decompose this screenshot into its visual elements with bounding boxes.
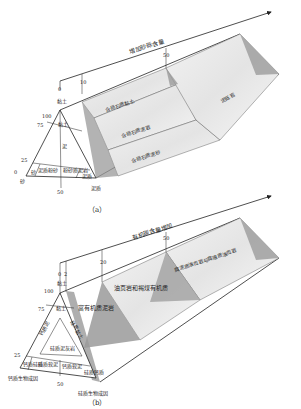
sediment-classification-diagram: 增加砂砾含量 0 10 50 含砾石质黏土 含砾石质泥岩 含砾石质泥砂 泥砾岩 … — [0, 0, 301, 409]
svg-text:20: 20 — [100, 259, 106, 265]
svg-text:砂: 砂 — [20, 178, 25, 185]
svg-text:钙质软泥: 钙质软泥 — [62, 363, 82, 370]
svg-text:10: 10 — [80, 79, 86, 85]
panel-b: 有机碳含量增加 0 2 20 50 富有机质泥岩 油页岩和褐煤有机质 腐泥质油页… — [8, 196, 279, 407]
svg-text:0: 0 — [14, 169, 17, 175]
svg-text:泥: 泥 — [62, 143, 67, 150]
svg-text:砂: 砂 — [31, 169, 36, 176]
svg-text:2: 2 — [64, 271, 67, 277]
svg-text:钙质生物成因: 钙质生物成因 — [8, 375, 38, 382]
svg-text:黏土: 黏土 — [56, 305, 66, 312]
svg-text:25: 25 — [21, 157, 27, 163]
svg-text:75: 75 — [37, 122, 43, 128]
svg-text:黏土: 黏土 — [57, 280, 67, 287]
svg-text:75: 75 — [38, 306, 44, 312]
svg-text:50: 50 — [57, 189, 63, 195]
svg-text:100: 100 — [42, 113, 52, 119]
caption-b: （b） — [88, 399, 106, 407]
svg-text:泥质: 泥质 — [91, 185, 101, 192]
svg-text:0: 0 — [58, 86, 61, 92]
svg-text:50: 50 — [163, 52, 169, 58]
caption-a: （a） — [88, 206, 106, 214]
svg-text:富有机质泥岩: 富有机质泥岩 — [78, 304, 114, 312]
svg-text:泥质粉砂: 泥质粉砂 — [38, 167, 58, 174]
svg-text:硅质钙质: 硅质钙质 — [84, 369, 104, 376]
svg-text:50: 50 — [57, 381, 63, 387]
svg-text:0: 0 — [58, 271, 61, 277]
panel-a: 增加砂砾含量 0 10 50 含砾石质黏土 含砾石质泥岩 含砾石质泥砂 泥砾岩 … — [14, 12, 279, 214]
svg-text:100: 100 — [44, 288, 54, 294]
svg-text:硅质生物成因: 硅质生物成因 — [78, 390, 108, 397]
svg-text:油页岩和褐煤有机质: 油页岩和褐煤有机质 — [114, 284, 168, 292]
svg-text:黏土: 黏土 — [58, 121, 68, 128]
svg-text:硅质泥灰岩: 硅质泥灰岩 — [50, 345, 75, 352]
svg-text:50: 50 — [163, 235, 169, 241]
svg-text:泥质: 泥质 — [82, 173, 92, 180]
svg-text:硅质软泥: 硅质软泥 — [38, 361, 58, 368]
svg-text:黏土: 黏土 — [57, 98, 67, 105]
svg-text:25: 25 — [14, 352, 20, 358]
